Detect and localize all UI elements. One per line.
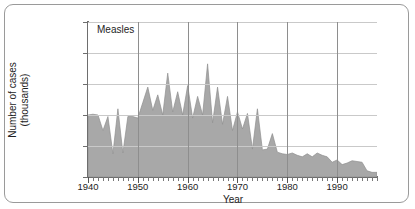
x-gridline [337,22,338,177]
x-tick-minor [272,177,273,181]
series-title: Measles [97,24,134,35]
x-tick-minor [153,177,154,181]
x-tick-minor [213,177,214,181]
y-tick-mark [83,146,87,147]
x-tick-minor [312,177,313,181]
y-axis-title-line1: Number of cases [7,62,18,138]
x-tick-label: 1990 [327,181,348,192]
x-tick-minor [203,177,204,181]
y-gridline [88,84,377,85]
x-tick-label: 1960 [177,181,198,192]
x-tick-minor [262,177,263,181]
y-gridline [88,115,377,116]
x-tick-minor [362,177,363,181]
x-tick-minor [267,177,268,181]
x-tick-label: 1940 [77,181,98,192]
y-axis-title-line2: (thousands) [19,74,30,127]
x-tick-minor [108,177,109,181]
x-tick-minor [352,177,353,181]
x-tick-minor [307,177,308,181]
y-tick-mark [83,115,87,116]
x-tick-minor [223,177,224,181]
x-tick-minor [208,177,209,181]
x-gridline [287,22,288,177]
x-tick-minor [163,177,164,181]
x-tick-minor [377,177,378,181]
x-tick-minor [302,177,303,181]
x-gridline [237,22,238,177]
x-tick-minor [173,177,174,181]
x-tick-minor [372,177,373,181]
y-tick-mark [83,84,87,85]
x-tick-label: 1950 [127,181,148,192]
x-tick-minor [158,177,159,181]
chart-figure: Number of cases (thousands) Measles Year… [5,5,408,202]
x-tick-minor [118,177,119,181]
x-tick-minor [113,177,114,181]
x-tick-label: 1970 [227,181,248,192]
x-tick-minor [317,177,318,181]
y-gridline [88,53,377,54]
x-tick-label: 1980 [277,181,298,192]
y-tick-mark [83,177,87,178]
y-gridline [88,22,377,23]
x-tick-minor [123,177,124,181]
y-tick-mark [83,22,87,23]
x-tick-minor [257,177,258,181]
plot-area [88,22,377,177]
x-axis-title: Year [223,194,243,205]
x-tick-minor [103,177,104,181]
x-gridline [138,22,139,177]
x-tick-minor [252,177,253,181]
x-tick-minor [168,177,169,181]
x-gridline [188,22,189,177]
y-gridline [88,146,377,147]
y-tick-mark [83,53,87,54]
measles-area-series [88,22,377,177]
x-tick-minor [357,177,358,181]
y-axis-title: Number of cases (thousands) [7,62,31,138]
x-tick-minor [367,177,368,181]
x-tick-minor [322,177,323,181]
chart-card: Number of cases (thousands) Measles Year… [4,4,409,203]
x-tick-minor [218,177,219,181]
